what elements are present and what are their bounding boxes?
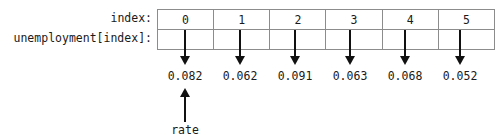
up-arrow-icon bbox=[157, 88, 213, 122]
array-indexing-diagram: index: unemployment[index]: 0 1 2 3 4 5 … bbox=[0, 0, 499, 140]
value-callout: 0.062 bbox=[212, 30, 268, 83]
index-cell: 3 bbox=[326, 10, 382, 30]
down-arrow-icon bbox=[432, 30, 488, 66]
index-cell: 4 bbox=[382, 10, 438, 30]
value-label: 0.062 bbox=[212, 69, 268, 83]
rate-annotation: rate bbox=[157, 88, 213, 137]
value-callout: 0.091 bbox=[267, 30, 323, 83]
down-arrow-icon bbox=[267, 30, 323, 66]
value-callout: 0.063 bbox=[322, 30, 378, 83]
index-cell: 0 bbox=[158, 10, 214, 30]
value-label: 0.052 bbox=[432, 69, 488, 83]
value-callout: 0.052 bbox=[432, 30, 488, 83]
value-label: 0.063 bbox=[322, 69, 378, 83]
array-row-label: unemployment[index]: bbox=[14, 31, 152, 45]
value-callout: 0.068 bbox=[377, 30, 433, 83]
index-header-row: 0 1 2 3 4 5 bbox=[158, 10, 495, 30]
down-arrow-icon bbox=[157, 30, 213, 66]
rate-label: rate bbox=[157, 123, 213, 137]
down-arrow-icon bbox=[322, 30, 378, 66]
value-label: 0.068 bbox=[377, 69, 433, 83]
index-cell: 5 bbox=[438, 10, 494, 30]
index-cell: 1 bbox=[214, 10, 270, 30]
value-label: 0.082 bbox=[157, 69, 213, 83]
value-callout: 0.082 bbox=[157, 30, 213, 83]
down-arrow-icon bbox=[377, 30, 433, 66]
value-label: 0.091 bbox=[267, 69, 323, 83]
down-arrow-icon bbox=[212, 30, 268, 66]
index-cell: 2 bbox=[270, 10, 326, 30]
index-row-label: index: bbox=[110, 11, 152, 25]
